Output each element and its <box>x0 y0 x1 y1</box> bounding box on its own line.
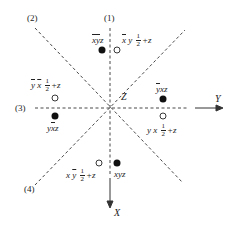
marker-filled-p5 <box>160 96 167 103</box>
fraction-half: 12 <box>136 33 142 48</box>
marker-open-p3 <box>52 95 58 101</box>
position-label-p5: yxz <box>156 85 168 94</box>
line-label-4: (4) <box>24 185 35 194</box>
position-label-p2: x y 12+z <box>122 33 152 48</box>
position-label-p4: yxz <box>47 124 59 133</box>
line-label-2: (2) <box>27 14 38 23</box>
line-label-3: (3) <box>15 104 26 113</box>
marker-open-p6 <box>160 113 166 119</box>
axis-label-z: Z <box>121 92 127 102</box>
line-label-1: (1) <box>104 14 115 23</box>
position-label-p8: xyz <box>114 170 126 179</box>
marker-open-p2 <box>114 47 120 53</box>
marker-filled-p8 <box>114 160 121 167</box>
marker-filled-p4 <box>52 113 59 120</box>
position-label-p7: x y 12+z <box>66 168 96 183</box>
axis-label-x: X <box>114 208 120 218</box>
marker-filled-p1 <box>99 47 106 54</box>
fraction-half: 12 <box>80 168 86 183</box>
fraction-half: 12 <box>161 123 167 138</box>
y-arrow-head <box>216 105 223 111</box>
diagram-canvas <box>0 0 234 225</box>
fraction-half: 12 <box>45 78 51 93</box>
marker-open-p7 <box>96 160 102 166</box>
position-label-p1: xyz <box>92 36 104 45</box>
axis-label-y: Y <box>215 94 221 104</box>
mirror-line-2 <box>35 28 183 183</box>
x-arrow-head <box>107 201 113 208</box>
position-label-p6: y x 12+z <box>147 123 177 138</box>
position-label-p3: y x 12+z <box>31 78 61 93</box>
